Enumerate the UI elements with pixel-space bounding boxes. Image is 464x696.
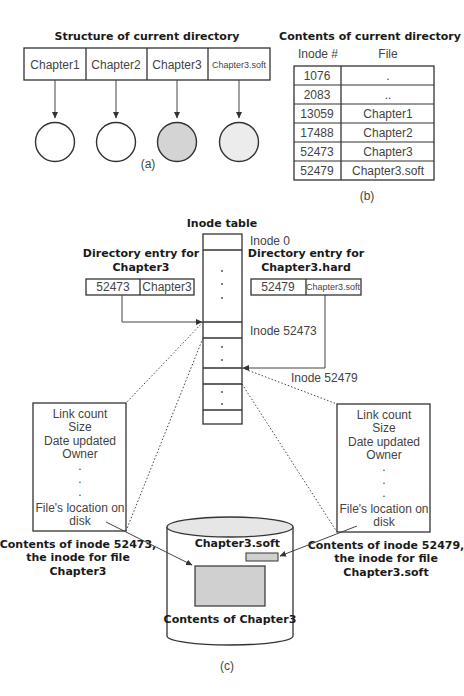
pointer-arrow-icon bbox=[122, 295, 202, 322]
right-entry-title-1: Directory entry for bbox=[248, 247, 365, 260]
right-caption-1: Contents of inode 52479, bbox=[308, 539, 464, 552]
panel-b-title: Contents of current directory bbox=[279, 30, 461, 43]
left-entry-title-1: Directory entry for bbox=[83, 247, 200, 260]
caption-c: (c) bbox=[220, 659, 234, 673]
inode-diagram: Structure of current directory Chapter1 … bbox=[0, 0, 464, 696]
file-node-chapter3 bbox=[158, 123, 197, 162]
field-date-updated: Date updated bbox=[44, 434, 116, 448]
file-node-chapter3-soft bbox=[220, 123, 259, 162]
field-date-updated: Date updated bbox=[348, 435, 420, 449]
cell-inode: 13059 bbox=[300, 107, 334, 121]
field-location-2: disk bbox=[373, 515, 395, 529]
field-location: File's location on bbox=[35, 501, 124, 515]
right-inode-contents: Link count Size Date updated Owner . . .… bbox=[337, 404, 430, 532]
left-caption-3: Chapter3 bbox=[50, 565, 107, 578]
right-entry-title-2: Chapter3.hard bbox=[261, 261, 351, 274]
inode-table bbox=[203, 234, 242, 424]
field-ellipsis: . bbox=[78, 485, 81, 499]
header-file: File bbox=[378, 47, 398, 61]
cell-file: Chapter2 bbox=[363, 126, 413, 140]
field-size: Size bbox=[372, 421, 396, 435]
panel-b-directory-contents: Contents of current directory Inode # Fi… bbox=[279, 30, 461, 203]
right-caption-3: Chapter3.soft bbox=[343, 566, 428, 579]
cell-inode: 52473 bbox=[300, 145, 334, 159]
right-entry-name: Chapter3.soft bbox=[306, 282, 361, 292]
cell-file: .. bbox=[385, 88, 392, 102]
left-inode-contents: Link count Size Date updated Owner . . .… bbox=[33, 403, 126, 531]
disk-cylinder-icon: Chapter3.soft Contents of Chapter3 bbox=[164, 517, 297, 645]
field-link-count: Link count bbox=[53, 407, 108, 421]
chapter3-data-block bbox=[195, 566, 265, 606]
field-ellipsis: . bbox=[78, 459, 81, 473]
soft-link-data-block bbox=[246, 553, 278, 561]
dir-entry-chapter3-soft: Chapter3.soft bbox=[212, 60, 267, 70]
field-link-count: Link count bbox=[357, 408, 412, 422]
field-ellipsis: . bbox=[382, 460, 385, 474]
dir-entry-chapter2: Chapter2 bbox=[91, 58, 141, 72]
panel-a-directory-structure: Structure of current directory Chapter1 … bbox=[24, 30, 270, 171]
panel-c-inode-links: Inode table Inode 0 Inode 52473 Inode 52… bbox=[0, 217, 464, 673]
left-caption-2: the inode for file bbox=[26, 551, 130, 564]
left-caption-1: Contents of inode 52473, bbox=[0, 538, 156, 551]
field-ellipsis: . bbox=[382, 486, 385, 500]
cell-inode: 17488 bbox=[300, 126, 334, 140]
dir-entry-chapter3: Chapter3 bbox=[152, 58, 202, 72]
label-inode-52473: Inode 52473 bbox=[250, 324, 317, 338]
inode-table-title: Inode table bbox=[187, 217, 257, 230]
file-node-chapter2 bbox=[97, 123, 136, 162]
cell-inode: 1076 bbox=[304, 69, 331, 83]
field-location-2: disk bbox=[69, 514, 91, 528]
field-size: Size bbox=[68, 420, 92, 434]
left-entry-inode: 52473 bbox=[96, 280, 130, 294]
table-row: 52479 Chapter3.soft bbox=[300, 164, 424, 178]
left-entry-name: Chapter3 bbox=[142, 280, 192, 294]
field-ellipsis: . bbox=[382, 473, 385, 487]
label-inode-52479: Inode 52479 bbox=[291, 371, 358, 385]
label-inode-0: Inode 0 bbox=[250, 234, 290, 248]
dir-entry-chapter1: Chapter1 bbox=[30, 58, 80, 72]
panel-a-title: Structure of current directory bbox=[55, 30, 240, 43]
field-ellipsis: . bbox=[78, 472, 81, 486]
cell-file: Chapter3.soft bbox=[352, 164, 425, 178]
right-entry-inode: 52479 bbox=[261, 280, 295, 294]
cell-inode: 2083 bbox=[304, 88, 331, 102]
disk-soft-label: Chapter3.soft bbox=[195, 537, 280, 550]
header-inode: Inode # bbox=[298, 47, 338, 61]
caption-a: (a) bbox=[141, 157, 156, 171]
cell-file: Chapter3 bbox=[363, 145, 413, 159]
field-location: File's location on bbox=[339, 502, 428, 516]
caption-b: (b) bbox=[360, 189, 375, 203]
left-entry-title-2: Chapter3 bbox=[113, 261, 170, 274]
cell-inode: 52479 bbox=[300, 164, 334, 178]
cell-file: . bbox=[386, 69, 389, 83]
cell-file: Chapter1 bbox=[363, 107, 413, 121]
file-node-chapter1 bbox=[36, 123, 75, 162]
right-caption-2: the inode for file bbox=[334, 552, 438, 565]
disk-content-label: Contents of Chapter3 bbox=[164, 613, 297, 626]
